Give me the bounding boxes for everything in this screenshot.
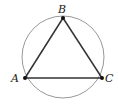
point-c bbox=[100, 76, 104, 80]
triangle-in-circle-diagram: A B C bbox=[0, 0, 118, 109]
edge-bc bbox=[63, 18, 102, 78]
label-a: A bbox=[10, 72, 19, 85]
label-c: C bbox=[105, 72, 114, 85]
circumcircle bbox=[22, 16, 104, 98]
label-b: B bbox=[57, 3, 66, 16]
edge-ab bbox=[25, 18, 63, 78]
point-b bbox=[61, 16, 65, 20]
point-a bbox=[23, 76, 27, 80]
